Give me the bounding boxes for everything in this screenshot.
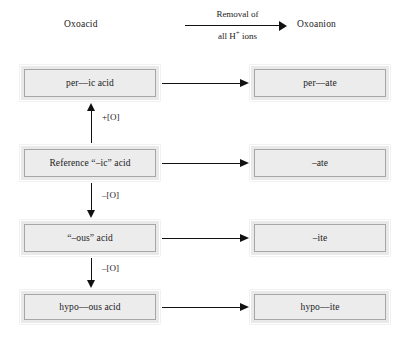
reduction-arrow-1-head-icon xyxy=(87,210,95,218)
anion-box-row-4: hypo––ite xyxy=(250,290,390,324)
anion-label-row-3: –ite xyxy=(313,233,328,243)
conversion-arrow-row-1 xyxy=(162,78,250,88)
reduction-label-remove-oxygen-2: –[O] xyxy=(102,263,119,273)
anion-box-row-4-inner: hypo––ite xyxy=(254,294,386,320)
anion-box-row-3-inner: –ite xyxy=(254,224,386,252)
oxidation-label-add-oxygen: +[O] xyxy=(102,112,120,122)
acid-label-row-3: “–ous” acid xyxy=(67,233,113,243)
conversion-arrow-row-2 xyxy=(162,158,250,168)
conversion-arrow-row-3 xyxy=(162,233,250,243)
oxidation-arrow-add-oxygen xyxy=(86,103,96,143)
anion-box-row-1-inner: per––ate xyxy=(254,69,386,97)
anion-label-row-2: –ate xyxy=(312,158,328,168)
acid-box-row-1: per––ic acid xyxy=(20,65,160,101)
column-header-oxoanion: Oxoanion xyxy=(297,19,336,29)
conversion-arrow-row-1-line xyxy=(162,83,242,84)
anion-box-row-1: per––ate xyxy=(250,65,390,101)
acid-box-row-2-inner: Reference “–ic” acid xyxy=(24,149,156,177)
conversion-arrow-row-2-head-icon xyxy=(240,159,249,167)
conversion-arrow-row-3-head-icon xyxy=(240,234,249,242)
removal-of-protons-arrow-group: Removal of all H+ ions xyxy=(185,9,290,47)
removal-arrow-head-icon xyxy=(279,21,287,31)
removal-arrow-label-line2: all H+ ions xyxy=(185,31,290,41)
conversion-arrow-row-2-line xyxy=(162,163,242,164)
oxoacid-oxoanion-nomenclature-diagram: Oxoacid Oxoanion Removal of all H+ ions … xyxy=(0,0,407,338)
acid-box-row-3: “–ous” acid xyxy=(20,220,160,256)
conversion-arrow-row-4-head-icon xyxy=(240,303,249,311)
removal-arrow-line xyxy=(185,25,281,26)
anion-label-row-4: hypo––ite xyxy=(301,302,340,312)
oxidation-arrow-up-line xyxy=(91,109,92,143)
acid-box-row-3-inner: “–ous” acid xyxy=(24,224,156,252)
acid-box-row-2: Reference “–ic” acid xyxy=(20,145,160,181)
removal-arrow-label-line2-before: all H xyxy=(218,31,236,41)
acid-box-row-1-inner: per––ic acid xyxy=(24,69,156,97)
reduction-arrow-2-line xyxy=(91,258,92,282)
acid-label-row-2: Reference “–ic” acid xyxy=(49,158,130,168)
anion-box-row-2: –ate xyxy=(250,145,390,181)
removal-arrow-label-line1: Removal of xyxy=(185,9,290,19)
removal-arrow-label-line2-after: ions xyxy=(240,31,257,41)
reduction-arrow-remove-oxygen-1 xyxy=(86,183,96,218)
conversion-arrow-row-4 xyxy=(162,302,250,312)
column-header-oxoacid: Oxoacid xyxy=(64,19,98,29)
reduction-label-remove-oxygen-1: –[O] xyxy=(102,190,119,200)
anion-label-row-1: per––ate xyxy=(303,78,337,88)
conversion-arrow-row-4-line xyxy=(162,307,242,308)
acid-box-row-4: hypo––ous acid xyxy=(20,290,160,324)
acid-label-row-4: hypo––ous acid xyxy=(59,302,120,312)
acid-label-row-1: per––ic acid xyxy=(66,78,114,88)
anion-box-row-3: –ite xyxy=(250,220,390,256)
reduction-arrow-2-head-icon xyxy=(87,280,95,288)
reduction-arrow-remove-oxygen-2 xyxy=(86,258,96,288)
conversion-arrow-row-3-line xyxy=(162,238,242,239)
anion-box-row-2-inner: –ate xyxy=(254,149,386,177)
acid-box-row-4-inner: hypo––ous acid xyxy=(24,294,156,320)
conversion-arrow-row-1-head-icon xyxy=(240,79,249,87)
reduction-arrow-1-line xyxy=(91,183,92,212)
